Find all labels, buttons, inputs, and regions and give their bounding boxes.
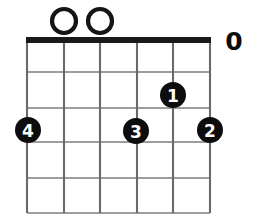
open-string-label: 0: [225, 27, 242, 56]
finger-dot-label-4: 4: [22, 121, 34, 141]
finger-dot-2: 2: [197, 117, 223, 143]
open-string-marker-2: [88, 9, 112, 33]
side-markers-group: 0: [225, 27, 242, 56]
finger-dot-label-3: 3: [130, 122, 142, 142]
finger-dot-3: 3: [123, 118, 149, 144]
chord-diagram: 0 1432: [0, 0, 256, 224]
finger-dots-group: 1432: [15, 82, 223, 144]
fretboard-diagram: 0 1432: [0, 0, 256, 224]
finger-dot-1: 1: [160, 82, 186, 108]
finger-dot-label-1: 1: [167, 86, 179, 106]
finger-dot-label-2: 2: [204, 121, 216, 141]
open-string-marker-1: [52, 9, 76, 33]
open-string-markers-group: [52, 9, 112, 33]
finger-dot-4: 4: [15, 117, 41, 143]
string-lines-group: [27, 40, 210, 213]
